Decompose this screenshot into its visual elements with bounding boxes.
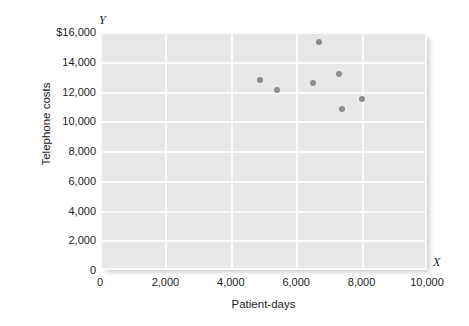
x-tick-label: 2,000 [152, 277, 180, 288]
x-tick-label: 0 [97, 277, 103, 288]
data-point [274, 87, 280, 93]
y-axis-letter: Y [99, 13, 106, 28]
gridline-horizontal [100, 211, 427, 213]
gridline-horizontal [100, 240, 427, 242]
y-tick-label: 10,000 [62, 116, 96, 127]
gridline-horizontal [100, 268, 427, 270]
y-tick-label: 12,000 [62, 87, 96, 98]
y-axis-title: Telephone costs [40, 54, 52, 194]
data-point [257, 77, 263, 83]
gridline-horizontal [100, 32, 427, 34]
gridline-horizontal [100, 181, 427, 183]
plot-area [100, 32, 427, 270]
y-tick-label: 8,000 [68, 146, 96, 157]
data-point [336, 71, 342, 77]
y-tick-label: 0 [90, 265, 96, 276]
y-tick-label: $16,000 [56, 27, 96, 38]
x-axis-title: Patient-days [100, 298, 427, 310]
gridline-horizontal [100, 151, 427, 153]
gridline-horizontal [100, 92, 427, 94]
x-axis-letter: X [433, 255, 440, 270]
y-tick-label: 6,000 [68, 176, 96, 187]
data-point [339, 106, 345, 112]
data-point [310, 80, 316, 86]
y-tick-label: 2,000 [68, 235, 96, 246]
x-tick-label: 6,000 [282, 277, 310, 288]
gridline-horizontal [100, 62, 427, 64]
x-tick-label: 8,000 [348, 277, 376, 288]
scatter-chart-figure: 02,0004,0006,0008,00010,00012,00014,000$… [0, 0, 469, 326]
x-tick-label: 10,000 [410, 277, 444, 288]
y-tick-label: 14,000 [62, 57, 96, 68]
data-point [359, 96, 365, 102]
x-tick-label: 4,000 [217, 277, 245, 288]
gridline-horizontal [100, 121, 427, 123]
data-point [316, 39, 322, 45]
y-tick-label: 4,000 [68, 206, 96, 217]
